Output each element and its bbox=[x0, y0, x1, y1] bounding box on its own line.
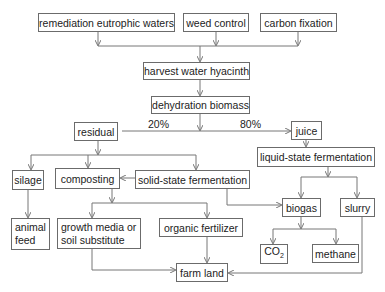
node-label: solid-state fermentation bbox=[138, 174, 247, 186]
node-label: composting bbox=[61, 173, 115, 185]
node-silage: silage bbox=[12, 170, 44, 190]
node-biogas: biogas bbox=[282, 198, 321, 217]
node-label: harvest water hyacinth bbox=[144, 65, 249, 77]
node-label: growth media or soil substitute bbox=[61, 221, 137, 247]
node-farm-land: farm land bbox=[176, 263, 228, 282]
node-label: CO2 bbox=[264, 245, 284, 262]
node-juice: juice bbox=[291, 121, 322, 140]
node-label: liquid-state fermentation bbox=[260, 151, 372, 163]
node-co2: CO2 bbox=[260, 244, 288, 264]
node-growth-media-or-soil-substitute: growth media or soil substitute bbox=[57, 218, 141, 249]
node-solid-state-fermentation: solid-state fermentation bbox=[135, 170, 250, 189]
node-label: carbon fixation bbox=[264, 17, 332, 29]
node-label: organic fertilizer bbox=[164, 222, 238, 234]
node-label: biogas bbox=[286, 202, 317, 214]
node-label: slurry bbox=[345, 202, 371, 214]
node-organic-fertilizer: organic fertilizer bbox=[159, 218, 243, 237]
node-dehydration-biomass: dehydration biomass bbox=[151, 96, 250, 114]
node-label: farm land bbox=[180, 267, 224, 279]
co2-text: CO bbox=[264, 245, 280, 257]
node-label: dehydration biomass bbox=[152, 99, 249, 111]
node-label: animal feed bbox=[15, 221, 46, 247]
node-liquid-state-fermentation: liquid-state fermentation bbox=[257, 147, 375, 167]
node-carbon-fixation: carbon fixation bbox=[260, 13, 337, 32]
node-slurry: slurry bbox=[340, 198, 375, 217]
node-composting: composting bbox=[55, 168, 120, 189]
co2-subscript: 2 bbox=[280, 253, 284, 260]
node-methane: methane bbox=[312, 244, 359, 263]
node-label: weed control bbox=[186, 17, 246, 29]
node-residual: residual bbox=[74, 122, 118, 141]
node-label: residual bbox=[78, 126, 115, 138]
edge-label-juice-percent: 80% bbox=[240, 118, 261, 130]
node-weed-control: weed control bbox=[183, 13, 249, 32]
node-label: juice bbox=[296, 125, 318, 137]
edge-label-residual-percent: 20% bbox=[148, 118, 169, 130]
node-label: remediation eutrophic waters bbox=[39, 17, 174, 29]
node-harvest-water-hyacinth: harvest water hyacinth bbox=[143, 62, 250, 80]
node-animal-feed: animal feed bbox=[11, 218, 50, 250]
node-remediation-eutrophic-waters: remediation eutrophic waters bbox=[38, 13, 175, 32]
node-label: silage bbox=[14, 174, 41, 186]
node-label: methane bbox=[315, 248, 356, 260]
